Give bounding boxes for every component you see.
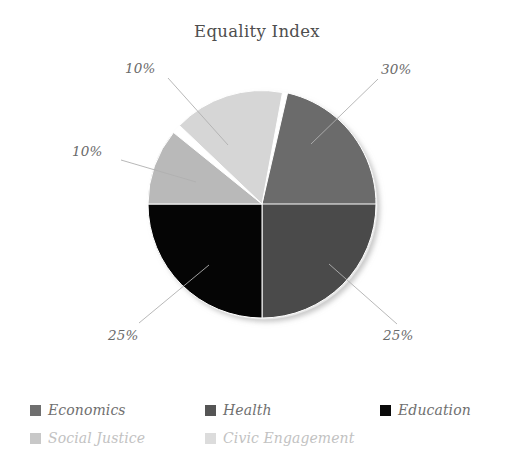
legend-label-civic-engagement: Civic Engagement: [223, 430, 354, 446]
legend-swatch-civic-engagement-icon: [205, 433, 216, 444]
pie-svg: [0, 0, 514, 390]
pie-slice-health[interactable]: [262, 204, 376, 318]
legend-label-health: Health: [223, 402, 272, 418]
legend-swatch-education-icon: [380, 405, 391, 416]
legend-label-social-justice: Social Justice: [48, 430, 145, 446]
chart-legend: Economics Health Education Social Justic…: [0, 390, 514, 473]
pie-label-social-justice: 10%: [72, 143, 103, 159]
legend-swatch-economics-icon: [30, 405, 41, 416]
legend-label-economics: Economics: [48, 402, 126, 418]
pie-chart-figure: Equality Index: [0, 0, 514, 473]
legend-row: Economics Health Education: [0, 396, 514, 424]
legend-swatch-social-justice-icon: [30, 433, 41, 444]
legend-item-education[interactable]: Education: [380, 396, 471, 424]
legend-item-health[interactable]: Health: [205, 396, 380, 424]
leader-line-health: [329, 264, 397, 324]
legend-item-social-justice[interactable]: Social Justice: [30, 424, 205, 452]
pie-label-health: 25%: [383, 327, 414, 343]
legend-row: Social Justice Civic Engagement: [0, 424, 514, 452]
legend-label-education: Education: [398, 402, 471, 418]
pie-label-civic-engagement: 10%: [125, 60, 156, 76]
legend-item-civic-engagement[interactable]: Civic Engagement: [205, 424, 380, 452]
pie-plot-area: 10% 10% 30% 25% 25%: [0, 0, 514, 390]
pie-label-education: 25%: [108, 327, 139, 343]
legend-swatch-health-icon: [205, 405, 216, 416]
legend-item-economics[interactable]: Economics: [30, 396, 205, 424]
pie-label-economics: 30%: [381, 61, 412, 77]
